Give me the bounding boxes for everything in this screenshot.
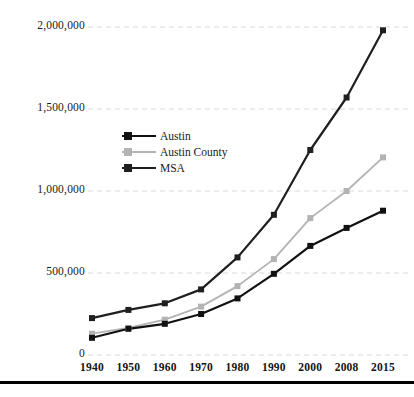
series-lines xyxy=(92,30,383,338)
legend-swatch-msa xyxy=(122,162,156,174)
data-point-marker xyxy=(380,27,386,33)
series-line-austin xyxy=(92,211,383,338)
y-axis-tick-label: 1,000,000 xyxy=(37,183,85,195)
data-point-marker xyxy=(162,300,168,306)
data-point-marker xyxy=(235,283,241,289)
data-point-marker xyxy=(125,307,131,313)
series-markers xyxy=(89,27,386,341)
data-point-marker xyxy=(162,321,168,327)
y-axis-tick-label: 0 xyxy=(79,347,85,359)
data-point-marker xyxy=(235,295,241,301)
legend-swatch-austin xyxy=(122,130,156,142)
legend-item-austin[interactable]: Austin xyxy=(122,128,252,143)
data-point-marker xyxy=(344,225,350,231)
series-line-austin-county xyxy=(92,157,383,333)
legend-label-austin: Austin xyxy=(156,130,191,142)
data-point-marker xyxy=(307,215,313,221)
data-point-marker xyxy=(344,188,350,194)
footer-rule xyxy=(0,381,414,384)
data-point-marker xyxy=(89,335,95,341)
data-point-marker xyxy=(380,208,386,214)
data-point-marker xyxy=(125,326,131,332)
data-point-marker xyxy=(344,95,350,101)
x-axis-tick-label: 2015 xyxy=(358,361,408,373)
data-point-marker xyxy=(198,286,204,292)
data-point-marker xyxy=(271,256,277,262)
data-point-marker xyxy=(198,311,204,317)
gridlines xyxy=(88,27,408,355)
legend-item-msa[interactable]: MSA xyxy=(122,160,252,175)
chart-legend: Austin Austin County MSA xyxy=(122,128,252,176)
data-point-marker xyxy=(380,154,386,160)
y-axis-tick-label: 500,000 xyxy=(46,265,85,277)
data-point-marker xyxy=(307,147,313,153)
data-point-marker xyxy=(271,212,277,218)
data-point-marker xyxy=(307,243,313,249)
y-axis-tick-label: 2,000,000 xyxy=(37,19,85,31)
legend-item-austin-county[interactable]: Austin County xyxy=(122,144,252,159)
legend-swatch-austin-county xyxy=(122,146,156,158)
data-point-marker xyxy=(235,254,241,260)
data-point-marker xyxy=(271,271,277,277)
legend-label-austin-county: Austin County xyxy=(156,146,227,158)
population-growth-chart: 0500,0001,000,0001,500,0002,000,000 1940… xyxy=(0,0,414,397)
y-axis-tick-label: 1,500,000 xyxy=(37,101,85,113)
legend-label-msa: MSA xyxy=(156,162,185,174)
chart-plot-area xyxy=(0,0,414,397)
data-point-marker xyxy=(89,315,95,321)
data-point-marker xyxy=(198,304,204,310)
